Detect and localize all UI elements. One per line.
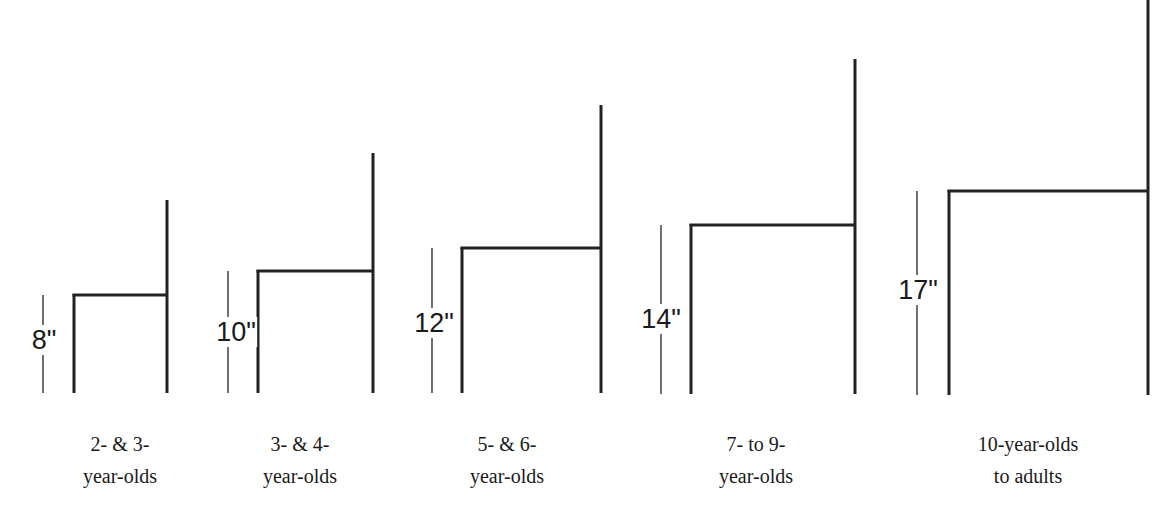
caption-line-2: year-olds (83, 460, 157, 492)
age-group-caption: 3- & 4- year-olds (263, 428, 337, 492)
caption-line-1: 5- & 6- (470, 428, 544, 460)
chair-height-diagram: 8" 10" 12" 14" 17" 2- & 3- year-olds 3- … (0, 0, 1176, 523)
age-group-caption: 2- & 3- year-olds (83, 428, 157, 492)
age-group-caption: 7- to 9- year-olds (719, 428, 793, 492)
seat-height-label: 8" (31, 325, 58, 355)
age-group-caption: 10-year-olds to adults (978, 428, 1079, 492)
seat-height-label: 12" (413, 308, 455, 338)
seat-height-label: 14" (640, 304, 682, 334)
seat-height-label: 10" (215, 317, 257, 347)
caption-line-1: 3- & 4- (263, 428, 337, 460)
caption-line-2: year-olds (263, 460, 337, 492)
caption-line-1: 7- to 9- (719, 428, 793, 460)
seat-height-label: 17" (897, 275, 939, 305)
age-group-caption: 5- & 6- year-olds (470, 428, 544, 492)
caption-line-2: year-olds (470, 460, 544, 492)
caption-line-2: year-olds (719, 460, 793, 492)
caption-line-1: 10-year-olds (978, 428, 1079, 460)
caption-line-1: 2- & 3- (83, 428, 157, 460)
caption-line-2: to adults (978, 460, 1079, 492)
